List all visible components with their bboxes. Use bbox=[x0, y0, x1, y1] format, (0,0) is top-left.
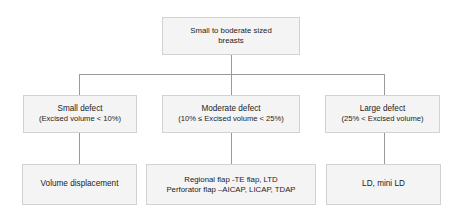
connector-large-defect-to-treatment bbox=[384, 133, 385, 164]
node-small-defect-line2: (Excised volume < 10%) bbox=[39, 114, 121, 124]
node-large-defect-line1: Large defect bbox=[360, 104, 406, 115]
node-moderate-defect-line2: (10% ≤ Excised volume < 25%) bbox=[178, 114, 284, 124]
node-moderate-treatment-line1: Regional flap -TE flap, LTD bbox=[184, 175, 277, 185]
connector-branch-bar bbox=[79, 74, 385, 75]
connector-small-defect-to-treatment bbox=[79, 133, 80, 164]
node-moderate-defect: Moderate defect (10% ≤ Excised volume < … bbox=[162, 95, 300, 133]
node-root-line1: Small to boderate sized bbox=[190, 26, 271, 36]
connector-bar-to-moderate-defect bbox=[231, 74, 232, 95]
node-large-defect-line2: (25% < Excised volume) bbox=[341, 114, 423, 124]
node-small-treatment: Volume displacement bbox=[22, 164, 137, 205]
node-root-line2: breasts bbox=[218, 36, 244, 46]
node-small-defect-line1: Small defect bbox=[57, 104, 102, 115]
node-small-treatment-line1: Volume displacement bbox=[41, 179, 119, 190]
node-moderate-defect-line1: Moderate defect bbox=[201, 104, 260, 115]
node-large-treatment: LD, mini LD bbox=[326, 164, 441, 205]
node-root: Small to boderate sized breasts bbox=[162, 17, 300, 55]
node-large-defect: Large defect (25% < Excised volume) bbox=[325, 95, 440, 133]
node-moderate-treatment-line2: Perforator flap –AICAP, LICAP, TDAP bbox=[166, 185, 295, 195]
node-large-treatment-line1: LD, mini LD bbox=[362, 179, 405, 190]
flowchart-diagram: Small to boderate sized breasts Small de… bbox=[0, 0, 460, 222]
connector-bar-to-small-defect bbox=[79, 74, 80, 95]
connector-bar-to-large-defect bbox=[384, 74, 385, 95]
connector-root-stem bbox=[231, 55, 232, 74]
node-small-defect: Small defect (Excised volume < 10%) bbox=[23, 95, 137, 133]
connector-moderate-defect-to-treatment bbox=[231, 133, 232, 164]
node-moderate-treatment: Regional flap -TE flap, LTD Perforator f… bbox=[146, 164, 316, 205]
